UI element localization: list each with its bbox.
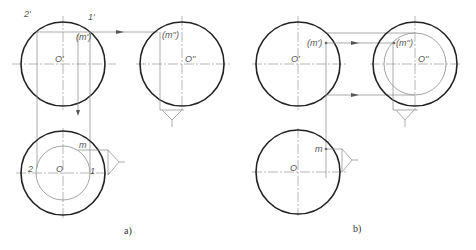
caption-a: a) — [124, 225, 132, 237]
label-2-prime: 2' — [23, 9, 31, 19]
point-m-prime — [325, 42, 328, 45]
section-symbol-icon — [162, 110, 182, 120]
label-o-prime: O' — [291, 54, 300, 64]
label-o: O — [290, 163, 297, 173]
panel-b-front-view — [252, 16, 346, 112]
section-symbol-icon — [396, 110, 414, 120]
label-o-double-prime: O'' — [418, 54, 429, 64]
section-symbol-icon — [342, 149, 352, 172]
arrow-right-icon — [116, 30, 124, 34]
label-m-double-prime: (m'') — [396, 38, 413, 48]
caption-b: b) — [353, 223, 361, 235]
label-m-double-prime: (m'') — [162, 30, 179, 40]
arrow-right-icon — [351, 41, 359, 45]
label-1: 1 — [90, 166, 95, 176]
projection-diagram: 2' 1' (m') O' (m'') O'' 2 O 1 m a) — [0, 0, 476, 250]
label-o-double-prime: O'' — [185, 54, 196, 64]
label-2: 2 — [27, 164, 33, 174]
panel-a-side-view — [136, 16, 232, 127]
label-m: m — [315, 144, 323, 154]
label-o: O — [56, 164, 63, 174]
panel-b-top-view — [252, 128, 358, 216]
arrow-down-icon — [76, 110, 80, 116]
panel-a: 2' 1' (m') O' (m'') O'' 2 O 1 m a) — [12, 9, 232, 237]
section-symbol-icon — [108, 150, 119, 175]
panel-a-top-view — [16, 128, 125, 220]
label-m-prime: (m') — [76, 32, 91, 42]
point-m-double-prime — [393, 42, 396, 45]
label-m: m — [79, 140, 87, 150]
arrow-right-icon — [351, 93, 359, 97]
label-1-prime: 1' — [88, 12, 95, 22]
panel-b: (m') O' (m'') O'' m O b) — [252, 16, 462, 235]
panel-a-front-view — [12, 16, 116, 112]
label-m-prime: (m') — [307, 38, 322, 48]
label-o-prime: O' — [55, 54, 64, 64]
